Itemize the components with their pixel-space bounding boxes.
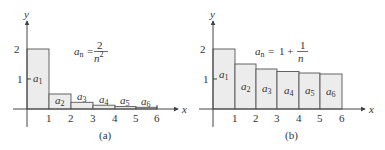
y-tick-label-2-b: 2 bbox=[200, 43, 206, 55]
svg-text:a4: a4 bbox=[99, 93, 109, 107]
y-tick-label-2-a: 2 bbox=[14, 43, 20, 55]
svg-text:3: 3 bbox=[274, 112, 280, 124]
svg-text:n2: n2 bbox=[94, 50, 104, 64]
svg-text:1 +: 1 + bbox=[279, 45, 293, 57]
y-axis-label-a: y bbox=[23, 8, 29, 20]
x-tick-labels-b: 1 2 3 4 5 6 bbox=[232, 112, 345, 124]
svg-text:=: = bbox=[268, 45, 274, 57]
svg-text:3: 3 bbox=[90, 112, 96, 124]
bars-b bbox=[213, 49, 342, 109]
svg-text:a3: a3 bbox=[77, 90, 87, 104]
svg-text:a6: a6 bbox=[141, 95, 151, 109]
svg-text:6: 6 bbox=[154, 112, 160, 124]
chart-panel-b: y x 2 1 1 2 3 4 5 6 a1 a2 a3 a4 a5 a6 an… bbox=[199, 8, 374, 142]
x-axis-label-a: x bbox=[181, 103, 187, 115]
svg-text:=: = bbox=[87, 45, 93, 57]
chart-panel-a: y x 2 1 1 2 3 4 5 6 a1 a2 a3 a4 a5 a6 an… bbox=[13, 8, 187, 142]
svg-text:1: 1 bbox=[300, 39, 306, 51]
svg-text:an: an bbox=[74, 45, 84, 59]
bars-a bbox=[27, 49, 157, 109]
svg-text:6: 6 bbox=[339, 112, 345, 124]
formula-a: an = 2 n2 bbox=[74, 39, 108, 64]
figure: y x 2 1 1 2 3 4 5 6 a1 a2 a3 a4 a5 a6 an… bbox=[0, 0, 385, 150]
svg-text:n: n bbox=[298, 52, 304, 64]
y-axis-label-b: y bbox=[209, 8, 215, 20]
svg-text:1: 1 bbox=[46, 112, 52, 124]
x-axis-label-b: x bbox=[368, 103, 374, 115]
panel-label-a: (a) bbox=[99, 129, 112, 142]
svg-text:5: 5 bbox=[317, 112, 323, 124]
svg-text:2: 2 bbox=[253, 112, 259, 124]
svg-text:a5: a5 bbox=[120, 94, 130, 108]
svg-text:4: 4 bbox=[296, 112, 302, 124]
svg-text:1: 1 bbox=[232, 112, 238, 124]
x-tick-labels-a: 1 2 3 4 5 6 bbox=[46, 112, 160, 124]
svg-text:4: 4 bbox=[112, 112, 118, 124]
svg-text:5: 5 bbox=[133, 112, 139, 124]
y-tick-label-1-a: 1 bbox=[17, 73, 23, 85]
svg-text:an: an bbox=[255, 45, 265, 59]
y-tick-label-1-b: 1 bbox=[203, 73, 209, 85]
svg-text:2: 2 bbox=[68, 112, 74, 124]
formula-b: an = 1 + 1 n bbox=[255, 39, 308, 64]
panel-label-b: (b) bbox=[285, 129, 298, 142]
